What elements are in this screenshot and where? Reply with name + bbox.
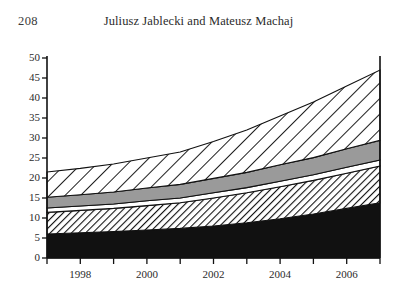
x-tick-label: 2004 — [257, 268, 303, 280]
page-header: 208 Juliusz Jablecki and Mateusz Machaj — [0, 14, 397, 34]
running-head-authors: Juliusz Jablecki and Mateusz Machaj — [0, 14, 397, 29]
x-tick-label: 2002 — [191, 268, 237, 280]
plot-area: 05101520253035404550 1998200020022004200… — [0, 42, 397, 297]
stacked-area-chart-figure: 05101520253035404550 1998200020022004200… — [0, 42, 397, 297]
x-tick-label: 1998 — [57, 268, 103, 280]
x-tick-label: 2000 — [124, 268, 170, 280]
x-axis-tick-labels: 19982000200220042006 — [0, 42, 397, 297]
x-tick-label: 2006 — [324, 268, 370, 280]
